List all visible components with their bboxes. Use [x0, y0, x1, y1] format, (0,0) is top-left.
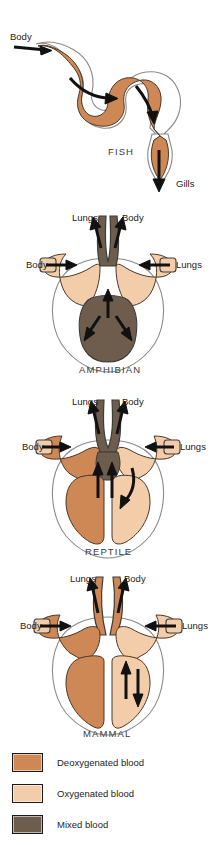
fish-class-label: FISH [108, 146, 134, 157]
fish-heart-diagram [0, 0, 216, 200]
panel-amphibian: Lungs Body Body Lungs AMPHIBIAN [0, 200, 216, 390]
amphibian-lungs-right-label: Lungs [176, 259, 202, 270]
legend-label-oxygenated: Oxygenated blood [57, 788, 134, 799]
reptile-class-label: REPTILE [85, 546, 132, 557]
legend-swatch-oxygenated [12, 784, 43, 803]
reptile-body-top-label: Body [122, 396, 144, 407]
mammal-heart-diagram [0, 565, 216, 745]
panel-mammal: Lungs Body Body Lungs MAMMAL [0, 565, 216, 745]
panel-fish: Body Gills FISH [0, 0, 216, 200]
mammal-body-left-label: Body [20, 620, 42, 631]
reptile-lungs-top-label: Lungs [72, 396, 98, 407]
fish-gills-label: Gills [176, 178, 194, 189]
blood-type-legend: Deoxygenated blood Oxygenated blood Mixe… [0, 748, 216, 845]
legend-swatch-deoxygenated [12, 753, 43, 772]
reptile-body-left-label: Body [22, 441, 44, 452]
panel-reptile: Lungs Body Body Lungs REPTILE [0, 390, 216, 570]
amphibian-heart-diagram [0, 200, 216, 390]
legend-item-mixed: Mixed blood [12, 814, 108, 834]
legend-label-mixed: Mixed blood [57, 819, 108, 830]
amphibian-class-label: AMPHIBIAN [79, 364, 141, 375]
vertebrate-heart-figure: Body Gills FISH [0, 0, 216, 845]
amphibian-lungs-top-label: Lungs [72, 212, 98, 223]
fish-body-label: Body [10, 31, 32, 42]
mammal-lungs-right-label: Lungs [182, 620, 208, 631]
mammal-body-top-label: Body [124, 573, 146, 584]
reptile-heart-diagram [0, 390, 216, 570]
amphibian-body-top-label: Body [122, 212, 144, 223]
legend-item-oxygenated: Oxygenated blood [12, 783, 134, 803]
legend-item-deoxygenated: Deoxygenated blood [12, 752, 144, 772]
reptile-lungs-right-label: Lungs [180, 441, 206, 452]
legend-swatch-mixed [12, 815, 43, 834]
amphibian-body-left-label: Body [26, 259, 48, 270]
mammal-class-label: MAMMAL [83, 728, 131, 739]
mammal-lungs-top-label: Lungs [70, 573, 96, 584]
legend-label-deoxygenated: Deoxygenated blood [57, 757, 144, 768]
